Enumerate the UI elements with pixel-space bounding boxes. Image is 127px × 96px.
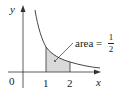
fraction-numerator: 1 <box>109 33 114 42</box>
x-tick-label-1: 1 <box>43 78 49 89</box>
x-axis-arrow-icon <box>94 70 101 75</box>
area-fraction: 1 2 <box>108 33 114 54</box>
y-axis-arrow-icon <box>21 5 26 12</box>
x-tick-label-2: 2 <box>67 78 73 89</box>
annotation-pointer <box>56 43 73 60</box>
x-axis-label: x <box>96 77 101 88</box>
origin-label: 0 <box>9 76 15 87</box>
annotation-dot <box>54 60 56 62</box>
fraction-denominator: 2 <box>109 45 114 54</box>
y-axis-label: y <box>10 4 15 15</box>
area-label: area = <box>75 38 102 49</box>
